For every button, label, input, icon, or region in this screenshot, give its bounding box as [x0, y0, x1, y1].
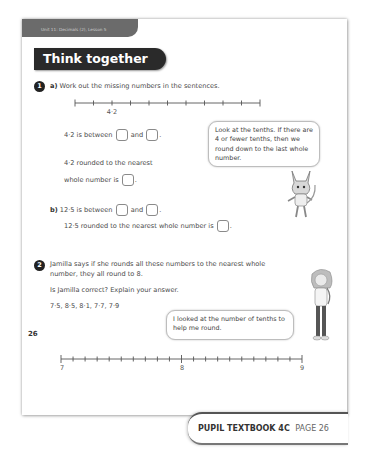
answer-box-b-lower[interactable]: [116, 204, 128, 216]
answer-box-upper[interactable]: [146, 129, 158, 141]
q1a-sentence-1: 4·2 is between and .: [64, 129, 161, 141]
number-line-label-8: 8: [180, 364, 184, 372]
section-title-banner: Think together: [34, 48, 166, 70]
question-1-badge: 1: [34, 81, 45, 92]
answer-box-rounded[interactable]: [122, 174, 134, 186]
number-line-marked-label: 4·2: [107, 108, 117, 116]
textbook-footer-label: PUPIL TEXTBOOK 4C PAGE 26: [188, 412, 348, 445]
q1a-instruction: Work out the missing numbers in the sent…: [60, 82, 220, 90]
q2-prompt: Is Jamilla correct? Explain your answer.: [50, 286, 179, 294]
number-line-label-7: 7: [60, 364, 64, 372]
q1a-label: a): [50, 82, 57, 90]
unit-lesson-tab: Unit 11: Decimals (2), Lesson 5: [22, 19, 138, 37]
q1a-sentence-2-line2: whole number is .: [64, 174, 137, 186]
page-number: 26: [28, 330, 38, 338]
answer-box-b-rounded[interactable]: [217, 220, 229, 232]
q1b-sentence-1: b) 12·5 is between and .: [50, 204, 161, 216]
hint-speech-bubble: Look at the tenths. If there are 4 or fe…: [208, 121, 320, 167]
cat-character-illustration: [282, 167, 320, 222]
q2-line-2: number, they all round to 8.: [50, 270, 143, 278]
number-line-tenths: [74, 97, 264, 109]
footer-book-title: PUPIL TEXTBOOK 4C: [198, 424, 290, 433]
q2-line-1: Jamilla says if she rounds all these num…: [50, 260, 265, 268]
answer-box-b-upper[interactable]: [146, 204, 158, 216]
q1b-sentence-2: 12·5 rounded to the nearest whole number…: [64, 220, 232, 232]
textbook-page: Unit 11: Decimals (2), Lesson 5 Think to…: [22, 19, 347, 415]
girl-character-illustration: [306, 266, 336, 346]
q2-numbers-list: 7·5, 8·5, 8·1, 7·7, 7·9: [50, 302, 119, 310]
q1a-instruction-row: a) Work out the missing numbers in the s…: [50, 82, 220, 90]
question-2-badge: 2: [34, 260, 45, 271]
number-line-label-9: 9: [300, 364, 304, 372]
footer-page: PAGE 26: [295, 424, 329, 433]
jamilla-speech-bubble: I looked at the number of tenths to help…: [166, 310, 294, 340]
q1a-sentence-2-line1: 4·2 rounded to the nearest: [64, 159, 153, 167]
answer-box-lower[interactable]: [116, 129, 128, 141]
